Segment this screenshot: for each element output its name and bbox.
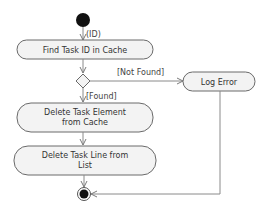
action-log-error: Log Error — [183, 72, 255, 91]
decision-node — [76, 74, 90, 88]
svg-text:List: List — [78, 161, 92, 170]
object-flow-label: (ID) — [86, 30, 101, 39]
initial-node — [76, 13, 90, 27]
final-node — [78, 188, 91, 201]
activity-diagram: (ID) Find Task ID in Cache [Not Found] L… — [0, 0, 267, 209]
svg-text:Find Task ID in Cache: Find Task ID in Cache — [43, 46, 128, 55]
guard-found: [Found] — [86, 92, 117, 101]
guard-not-found: [Not Found] — [117, 68, 164, 77]
svg-text:Delete Task Line from: Delete Task Line from — [42, 151, 129, 160]
svg-text:Log Error: Log Error — [201, 78, 238, 87]
svg-text:Delete Task Element: Delete Task Element — [44, 108, 126, 117]
action-find-task-id: Find Task ID in Cache — [17, 40, 153, 59]
svg-text:from Cache: from Cache — [62, 118, 108, 127]
action-delete-task-line: Delete Task Line from List — [14, 146, 156, 175]
action-delete-task-element: Delete Task Element from Cache — [17, 103, 153, 132]
